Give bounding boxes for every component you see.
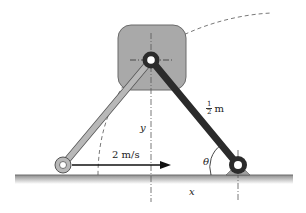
length-denominator: 2 [207, 109, 211, 116]
length-label: 1 2 m [206, 101, 224, 117]
mechanism-diagram: 2 m/s y x θ 1 2 m [0, 0, 306, 213]
dark-link [151, 60, 238, 165]
left-pin [55, 157, 71, 173]
fixed-pivot-pin [229, 156, 247, 174]
theta-label: θ [203, 157, 209, 167]
velocity-arrow [72, 161, 171, 169]
length-unit: m [214, 104, 223, 114]
x-label: x [189, 187, 195, 197]
theta-arc [210, 145, 221, 175]
diagram-canvas [0, 0, 306, 213]
ground [15, 175, 293, 184]
velocity-label: 2 m/s [112, 150, 140, 160]
block-pin [143, 52, 160, 69]
y-label: y [140, 123, 146, 133]
length-fraction: 1 2 [206, 101, 212, 117]
